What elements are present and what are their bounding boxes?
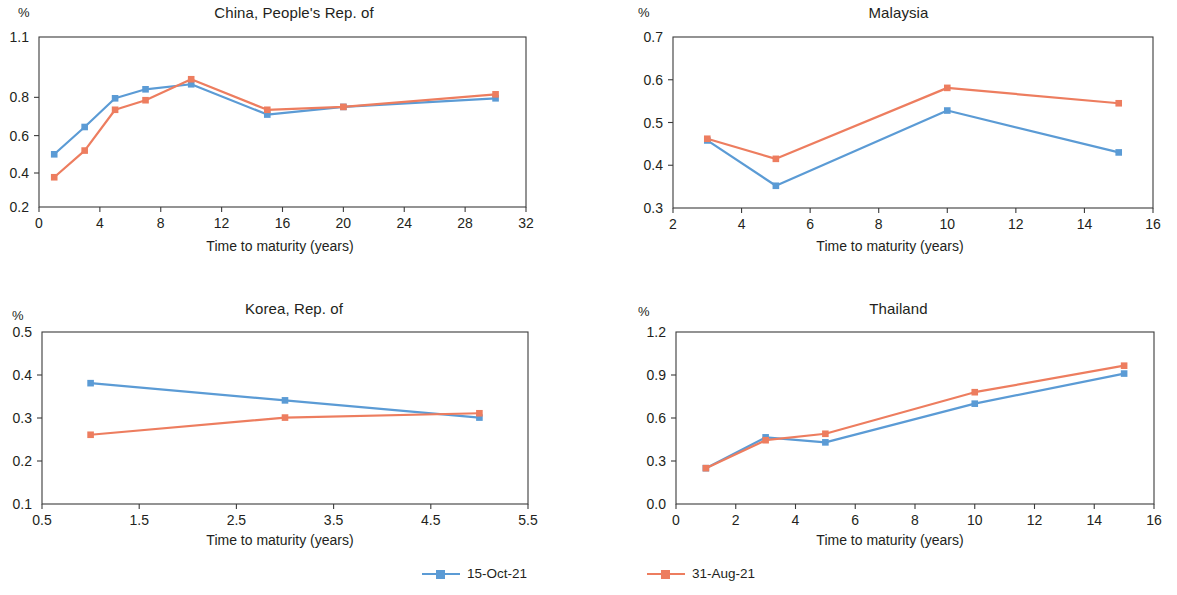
x-tick-label: 4.5 — [421, 512, 441, 528]
x-tick-label: 28 — [457, 215, 473, 231]
plot-frame — [673, 37, 1153, 208]
data-point — [822, 430, 829, 437]
x-tick-label: 2.5 — [227, 512, 247, 528]
x-tick-label: 3.5 — [324, 512, 344, 528]
x-axis-title-thailand: Time to maturity (years) — [620, 532, 1160, 548]
x-tick-label: 10 — [967, 512, 983, 528]
y-tick-label: 0.9 — [647, 367, 667, 383]
data-point — [773, 182, 780, 189]
y-tick-label: 0.3 — [647, 453, 667, 469]
series-line-1 — [54, 79, 495, 177]
y-tick-label: 0.4 — [10, 165, 30, 181]
data-point — [703, 465, 710, 472]
x-tick-label: 6 — [806, 216, 814, 232]
y-tick-label: 0.4 — [644, 157, 664, 173]
x-tick-label: 8 — [875, 216, 883, 232]
x-tick-label: 4 — [738, 216, 746, 232]
data-point — [340, 104, 347, 111]
y-tick-label: 0.6 — [10, 128, 30, 144]
x-tick-label: 12 — [214, 215, 230, 231]
panel-malaysia: % Malaysia 2468101214160.30.40.50.60.7 T… — [620, 0, 1177, 278]
x-tick-label: 4 — [96, 215, 104, 231]
data-point — [476, 410, 483, 417]
plot-thailand: 02468101214160.00.30.60.91.2 — [620, 320, 1177, 530]
legend-label-1: 31-Aug-21 — [692, 566, 755, 581]
legend-marker-0 — [436, 570, 445, 579]
y-tick-label: 0.3 — [644, 200, 664, 216]
data-point — [762, 437, 769, 444]
data-point — [51, 174, 58, 181]
panel-thailand: % Thailand 02468101214160.00.30.60.91.2 … — [620, 292, 1177, 562]
y-tick-label: 0.5 — [13, 324, 33, 340]
series-line-0 — [54, 84, 495, 154]
data-point — [822, 439, 829, 446]
x-tick-label: 4 — [792, 512, 800, 528]
x-tick-label: 16 — [275, 215, 291, 231]
x-tick-label: 8 — [911, 512, 919, 528]
data-point — [773, 156, 780, 163]
y-tick-label: 0.4 — [13, 367, 33, 383]
data-point — [142, 86, 149, 93]
x-axis-title-china: Time to maturity (years) — [0, 238, 560, 254]
plot-frame — [676, 332, 1154, 504]
x-tick-label: 12 — [1027, 512, 1043, 528]
x-tick-label: 8 — [157, 215, 165, 231]
data-point — [1121, 362, 1128, 369]
data-point — [944, 107, 951, 114]
chart-legend: 15-Oct-21 31-Aug-21 — [0, 566, 1177, 581]
y-tick-label: 0.6 — [644, 72, 664, 88]
y-tick-label: 0.2 — [13, 453, 33, 469]
data-point — [112, 95, 119, 102]
data-point — [282, 397, 289, 404]
x-tick-label: 14 — [1077, 216, 1093, 232]
x-tick-label: 5.5 — [518, 512, 538, 528]
panel-title-korea: Korea, Rep. of — [0, 300, 588, 317]
plot-malaysia: 2468101214160.30.40.50.60.7 — [620, 20, 1177, 240]
panel-title-thailand: Thailand — [620, 300, 1177, 317]
legend-swatch-1 — [647, 568, 685, 580]
data-point — [81, 147, 88, 154]
y-tick-label: 0.3 — [13, 410, 33, 426]
data-point — [188, 76, 195, 83]
x-tick-label: 16 — [1145, 216, 1161, 232]
legend-item-1: 31-Aug-21 — [647, 566, 755, 581]
x-tick-label: 0 — [35, 215, 43, 231]
series-line-1 — [707, 88, 1118, 159]
plot-china: 0481216202428320.20.40.60.81.1 — [0, 20, 588, 240]
y-tick-label: 1.2 — [647, 324, 667, 340]
x-tick-label: 6 — [851, 512, 859, 528]
data-point — [1121, 370, 1128, 377]
x-tick-label: 24 — [396, 215, 412, 231]
legend-swatch-0 — [422, 568, 460, 580]
y-tick-label: 1.1 — [10, 29, 30, 45]
data-point — [112, 106, 119, 113]
x-tick-label: 16 — [1146, 512, 1162, 528]
x-axis-title-korea: Time to maturity (years) — [0, 532, 560, 548]
x-tick-label: 32 — [518, 215, 534, 231]
legend-label-0: 15-Oct-21 — [467, 566, 527, 581]
y-tick-label: 0.7 — [644, 29, 664, 45]
data-point — [1115, 149, 1122, 156]
data-point — [492, 91, 499, 98]
x-tick-label: 2 — [669, 216, 677, 232]
series-line-0 — [706, 374, 1124, 469]
data-point — [704, 135, 711, 142]
x-tick-label: 1.5 — [129, 512, 149, 528]
y-tick-label: 0.8 — [10, 89, 30, 105]
y-tick-label: 0.2 — [10, 199, 30, 215]
x-tick-label: 20 — [336, 215, 352, 231]
panel-china: % China, People's Rep. of 04812162024283… — [0, 0, 588, 278]
panel-title-malaysia: Malaysia — [620, 4, 1177, 21]
y-tick-label: 0.6 — [647, 410, 667, 426]
panel-title-china: China, People's Rep. of — [0, 4, 588, 21]
legend-item-0: 15-Oct-21 — [422, 566, 527, 581]
x-tick-label: 0.5 — [32, 512, 52, 528]
data-point — [971, 400, 978, 407]
y-tick-label: 0.5 — [644, 115, 664, 131]
data-point — [87, 431, 94, 438]
data-point — [944, 85, 951, 92]
legend-marker-1 — [661, 570, 670, 579]
plot-korea: 0.51.52.53.54.55.50.10.20.30.40.5 — [0, 320, 588, 530]
data-point — [51, 151, 58, 158]
x-tick-label: 12 — [1008, 216, 1024, 232]
